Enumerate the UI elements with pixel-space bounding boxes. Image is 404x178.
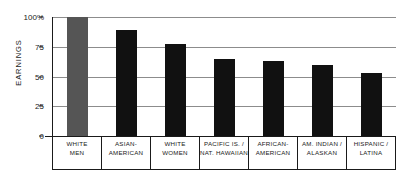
y-axis-ticks: 100%7550250 [0, 0, 44, 178]
y-tick-mark [39, 17, 43, 18]
category-label-line: AM. INDIAN / [302, 140, 342, 149]
category-label: AM. INDIAN /ALASKAN [298, 136, 347, 169]
category-label-line: WHITE [164, 140, 185, 149]
category-label: ASIAN-AMERICAN [102, 136, 151, 169]
y-tick-mark [39, 136, 43, 137]
y-tick-mark [39, 46, 43, 47]
category-label-line: NAT. HAWAIIAN [200, 149, 248, 158]
category-label: HISPANIC /LATINA [347, 136, 395, 169]
category-label-line: WHITE [66, 140, 87, 149]
y-tick-mark [39, 106, 43, 107]
bar [214, 59, 235, 136]
category-label-line: PACIFIC IS. / [204, 140, 244, 149]
category-label-line: ASIAN- [115, 140, 137, 149]
category-label-line: HISPANIC / [354, 140, 389, 149]
category-label-line: AMERICAN [256, 149, 291, 158]
plot-area [52, 17, 396, 136]
bar [116, 30, 137, 136]
category-label: WHITEMEN [53, 136, 102, 169]
category-label: WHITEWOMEN [151, 136, 200, 169]
earnings-bar-chart: EARNINGS 100%7550250 WHITEMENASIAN-AMERI… [0, 0, 404, 178]
bar [312, 65, 333, 136]
category-label-line: ALASKAN [307, 149, 337, 158]
bar [263, 61, 284, 136]
category-label-line: AMERICAN [109, 149, 144, 158]
bar [165, 44, 186, 136]
category-label-band: WHITEMENASIAN-AMERICANWHITEWOMENPACIFIC … [52, 136, 396, 170]
category-label-line: LATINA [360, 149, 383, 158]
category-label-line: MEN [70, 149, 85, 158]
category-label: AFRICAN-AMERICAN [249, 136, 298, 169]
bar [361, 73, 382, 136]
category-label-line: AFRICAN- [257, 140, 288, 149]
bar-series [53, 17, 396, 136]
category-label: PACIFIC IS. /NAT. HAWAIIAN [200, 136, 249, 169]
y-tick-mark [39, 76, 43, 77]
bar [67, 17, 88, 136]
category-label-line: WOMEN [162, 149, 188, 158]
